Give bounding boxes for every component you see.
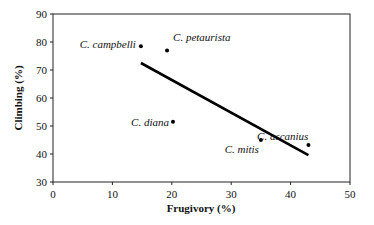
x-tick-label: 50 xyxy=(345,188,357,200)
point-label: C. mitis xyxy=(225,143,259,155)
point-label: C. diana xyxy=(131,116,169,128)
x-tick-label: 0 xyxy=(50,188,56,200)
y-tick-label: 30 xyxy=(36,176,48,188)
data-point xyxy=(165,48,169,52)
point-label: C. campbelli xyxy=(80,38,136,50)
x-tick-label: 10 xyxy=(107,188,119,200)
data-point xyxy=(306,143,310,147)
scatter-chart: 3040506070809001020304050 C. campbelliC.… xyxy=(0,0,374,225)
point-label: C. petaurista xyxy=(173,31,231,43)
y-tick-label: 50 xyxy=(36,120,48,132)
data-point xyxy=(139,44,143,48)
y-tick-label: 70 xyxy=(36,64,48,76)
x-tick-label: 30 xyxy=(226,188,238,200)
y-axis-label: Climbing (%) xyxy=(12,65,25,130)
y-tick-label: 80 xyxy=(36,36,48,48)
y-tick-label: 40 xyxy=(36,148,48,160)
y-tick-label: 60 xyxy=(36,92,48,104)
x-tick-label: 40 xyxy=(285,188,297,200)
x-axis-label: Frugivory (%) xyxy=(167,202,236,215)
plot-area: C. campbelliC. petauristaC. dianaC. miti… xyxy=(80,31,311,155)
point-label: C. ascanius xyxy=(257,130,308,142)
y-tick-label: 90 xyxy=(36,8,48,20)
x-tick-label: 20 xyxy=(166,188,178,200)
data-point xyxy=(171,120,175,124)
